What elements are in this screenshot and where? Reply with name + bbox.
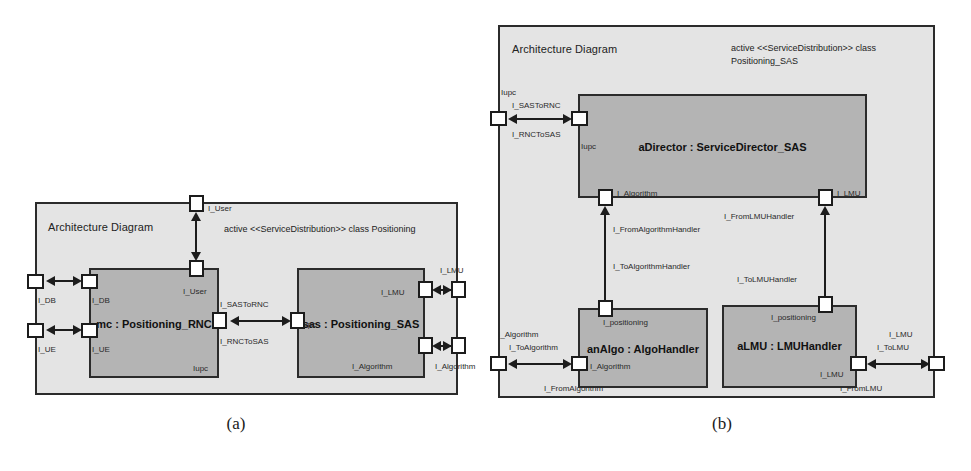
- arrow-b-lmu-right: [921, 359, 930, 369]
- arrow-a-algorithm-right: [443, 341, 452, 351]
- port-a-lmu-frame[interactable]: [451, 281, 466, 298]
- port-b-algorithm-analgo[interactable]: [571, 356, 588, 371]
- port-a-user-frame[interactable]: [189, 195, 204, 212]
- caption-a: (a): [206, 414, 266, 434]
- port-b-director-lmu[interactable]: [818, 189, 833, 206]
- class-box-adirector[interactable]: aDirector : ServiceDirector_SAS: [578, 94, 867, 198]
- arrow-a-user-up: [191, 212, 201, 221]
- label-b-algo-algorithm: I_Algorithm: [590, 362, 630, 371]
- arrow-b-lmu-handler-up: [820, 206, 830, 215]
- label-a-db-inner: I_DB: [92, 296, 110, 305]
- label-a-db-outer: I_DB: [38, 296, 56, 305]
- connector-b-algorithm: [512, 363, 570, 365]
- label-a-lmu-inner: I_LMU: [381, 288, 405, 297]
- label-b-director-lmu: I_LMU: [837, 189, 861, 198]
- port-a-algorithm-sas[interactable]: [418, 337, 433, 354]
- port-a-rnc-to-sas-mc[interactable]: [212, 312, 227, 329]
- arrow-b-iupc-right: [563, 114, 572, 124]
- label-mc-iupc: Iupc: [193, 364, 208, 373]
- port-b-lmu-frame[interactable]: [928, 356, 945, 371]
- label-a-sas-to-rnc: I_SASToRNC: [220, 300, 268, 309]
- arrow-a-user-down: [191, 252, 201, 261]
- arrow-a-rnc-sas-right: [282, 316, 291, 326]
- label-b-iupc-inner: Iupc: [581, 142, 596, 151]
- class-name-almu: aLMU : LMUHandler: [724, 340, 855, 352]
- diagram-a-frame-title: Architecture Diagram: [48, 221, 153, 233]
- caption-b: (b): [692, 414, 752, 434]
- label-a-lmu-outer: I_LMU: [440, 266, 464, 275]
- label-b-from-algorithm-handler: I_FromAlgorithmHandler: [613, 225, 700, 234]
- label-a-algorithm-inner: I_Algorithm: [352, 362, 392, 371]
- port-a-user-mc[interactable]: [189, 260, 204, 277]
- label-b-from-lmu-handler: I_FromLMUHandler: [724, 212, 794, 221]
- label-a-ue-inner: I_UE: [92, 345, 110, 354]
- class-name-adirector: aDirector : ServiceDirector_SAS: [580, 141, 865, 153]
- port-a-ue-mc[interactable]: [81, 323, 98, 338]
- class-box-mc-positioning-rnc[interactable]: mc : Positioning_RNC: [89, 268, 219, 378]
- label-b-to-lmu-handler: I_ToLMUHandler: [737, 275, 797, 284]
- arrow-a-lmu-left: [432, 285, 441, 295]
- port-b-iupc-frame[interactable]: [490, 111, 507, 126]
- port-a-db-frame[interactable]: [27, 274, 44, 289]
- label-b-to-algorithm-handler: I_ToAlgorithmHandler: [613, 262, 690, 271]
- arrow-a-ue-left: [46, 325, 55, 335]
- label-b-lmu-outer: I_LMU: [889, 330, 913, 339]
- diagram-b-frame: [498, 25, 935, 398]
- port-b-analgo-positioning[interactable]: [598, 300, 613, 317]
- connector-a-rnc-sas: [234, 320, 289, 322]
- arrow-a-rnc-sas-left: [230, 316, 239, 326]
- port-b-algorithm-frame[interactable]: [490, 356, 507, 371]
- port-b-lmu-almu[interactable]: [850, 356, 867, 371]
- label-b-lmu-positioning: I_positioning: [771, 313, 816, 322]
- label-b-sas-to-rnc: I_SASToRNC: [512, 101, 560, 110]
- arrow-a-ue-right: [73, 325, 82, 335]
- port-a-sas-to-rnc-sas[interactable]: [290, 312, 305, 329]
- uml-architecture-figure: Architecture Diagram active <<ServiceDis…: [0, 0, 971, 471]
- port-b-director-algorithm[interactable]: [598, 189, 613, 206]
- arrow-a-lmu-right: [443, 285, 452, 295]
- label-a-ue-outer: I_UE: [38, 345, 56, 354]
- label-b-from-lmu: I_FromLMU: [840, 384, 882, 393]
- label-a-algorithm-outer: I_Algorithm: [435, 362, 475, 371]
- diagram-b-frame-title: Architecture Diagram: [512, 43, 617, 55]
- label-b-algorithm-outer: I_Algorithm: [498, 330, 538, 339]
- port-b-iupc-director[interactable]: [571, 111, 588, 126]
- diagram-a-stereotype: active <<ServiceDistribution>> class Pos…: [224, 224, 416, 235]
- diagram-b-stereotype-line1: active <<ServiceDistribution>> class: [731, 43, 876, 54]
- arrow-b-algorithm-right: [563, 359, 572, 369]
- arrow-a-algorithm-left: [432, 341, 441, 351]
- label-b-to-lmu: I_ToLMU: [877, 343, 909, 352]
- label-b-from-algorithm: I_FromAlgorithm: [544, 384, 603, 393]
- arrow-b-algorithm-left: [508, 359, 517, 369]
- label-b-lmu-lmu: I_LMU: [820, 370, 844, 379]
- label-a-user-inner: I_User: [183, 287, 207, 296]
- arrow-b-algorithm-handler-up: [600, 206, 610, 215]
- port-b-almu-positioning[interactable]: [818, 296, 833, 313]
- class-name-mc: mc : Positioning_RNC: [91, 318, 217, 330]
- label-a-rnc-to-sas: I_RNCToSAS: [220, 337, 268, 346]
- label-b-to-algorithm: I_ToAlgorithm: [509, 343, 558, 352]
- label-b-algo-positioning: I_positioning: [603, 318, 648, 327]
- arrow-b-iupc-left: [508, 114, 517, 124]
- port-a-algorithm-frame[interactable]: [451, 337, 466, 354]
- port-a-lmu-sas[interactable]: [418, 281, 433, 298]
- diagram-b-stereotype-line2: Positioning_SAS: [731, 56, 798, 67]
- label-b-rnc-to-sas: I_RNCToSAS: [512, 130, 560, 139]
- connector-b-lmu-handler: [824, 211, 826, 301]
- connector-a-user: [195, 217, 197, 257]
- label-b-iupc-outer: Iupc: [501, 88, 516, 97]
- class-name-analgo: anAlgo : AlgoHandler: [580, 343, 706, 355]
- arrow-a-db-left: [46, 276, 55, 286]
- port-a-ue-frame[interactable]: [27, 323, 44, 338]
- class-name-sas: sas : Positioning_SAS: [299, 318, 423, 330]
- connector-b-iupc: [512, 118, 570, 120]
- arrow-a-db-right: [73, 276, 82, 286]
- connector-b-algorithm-handler: [604, 211, 606, 306]
- label-a-user-outer: I_User: [208, 204, 232, 213]
- label-b-director-algorithm: I_Algorithm: [617, 189, 657, 198]
- port-a-db-mc[interactable]: [81, 274, 98, 289]
- arrow-b-lmu-left: [867, 359, 876, 369]
